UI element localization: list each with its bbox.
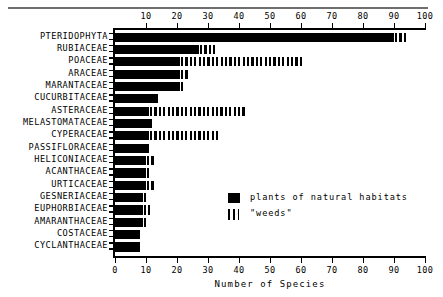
bar-row (115, 94, 425, 103)
tick-bottom-90 (394, 258, 395, 263)
tick-left-1-1 (109, 51, 114, 52)
tick-left-13-1 (109, 199, 114, 200)
tick-left-0-1 (109, 39, 114, 40)
tick-left-5-1 (109, 100, 114, 101)
tick-label-bottom-80: 80 (358, 265, 369, 275)
bar-segment-natural (115, 218, 143, 227)
bar-segment-weeds (147, 181, 156, 190)
category-label: HELICONIACEAE (34, 155, 108, 164)
bar-row (115, 218, 425, 227)
bar-segment-natural (115, 242, 140, 251)
tick-left-15-1 (109, 224, 114, 225)
tick-left-2-0 (109, 57, 114, 58)
tick-left-12-1 (109, 187, 114, 188)
category-label: ACANTHACEAE (46, 167, 108, 176)
category-label: CYPERACEAE (51, 130, 108, 139)
tick-top-70 (332, 23, 333, 28)
tick-left-10-0 (109, 156, 114, 157)
figure: PTERIDOPHYTARUBIACEAEPOACEAEARACEAEMARAN… (0, 0, 443, 297)
tick-left-12-0 (109, 181, 114, 182)
tick-label-bottom-40: 40 (234, 265, 245, 275)
tick-left-16-1 (109, 236, 114, 237)
tick-bottom-60 (301, 258, 302, 263)
bar-row (115, 242, 425, 251)
category-label: ARACEAE (68, 69, 108, 78)
bar-segment-weeds (144, 218, 147, 227)
tick-top-50 (270, 23, 271, 28)
bar-row (115, 45, 425, 54)
bar-segment-weeds (147, 156, 156, 165)
bar-segment-weeds (144, 205, 150, 214)
tick-bottom-20 (177, 258, 178, 263)
tick-label-bottom-70: 70 (327, 265, 338, 275)
tick-left-8-0 (109, 131, 114, 132)
tick-label-bottom-30: 30 (203, 265, 214, 275)
bar-segment-natural (115, 156, 146, 165)
tick-left-3-1 (109, 76, 114, 77)
tick-top-80 (363, 23, 364, 28)
legend-swatch-hatched-icon (228, 209, 239, 220)
category-label: URTICACEAE (51, 180, 108, 189)
tick-left-17-1 (109, 248, 114, 249)
bar-row (115, 57, 425, 66)
bar-segment-natural (115, 33, 394, 42)
bar-row (115, 131, 425, 140)
category-label: PASSIFLORACEAE (29, 143, 108, 152)
tick-label-top-30: 30 (203, 11, 214, 21)
category-axis-labels: PTERIDOPHYTARUBIACEAEPOACEAEARACEAEMARAN… (0, 31, 110, 255)
tick-left-2-1 (109, 63, 114, 64)
tick-label-top-40: 40 (234, 11, 245, 21)
tick-top-40 (239, 23, 240, 28)
tick-label-bottom-50: 50 (265, 265, 276, 275)
tick-label-bottom-100: 100 (417, 265, 433, 275)
tick-label-top-60: 60 (296, 11, 307, 21)
category-label: AMARANTHACEAE (34, 217, 108, 226)
tick-left-8-1 (109, 137, 114, 138)
bar-segment-weeds (200, 45, 216, 54)
tick-bottom-0 (115, 258, 116, 263)
tick-label-bottom-20: 20 (172, 265, 183, 275)
tick-label-top-70: 70 (327, 11, 338, 21)
tick-label-bottom-90: 90 (389, 265, 400, 275)
tick-left-11-0 (109, 168, 114, 169)
category-label: EUPHORBIACEAE (34, 204, 108, 213)
tick-bottom-40 (239, 258, 240, 263)
category-label: POACEAE (68, 56, 108, 65)
bar-segment-weeds (144, 193, 147, 202)
tick-bottom-70 (332, 258, 333, 263)
bar-row (115, 181, 425, 190)
bar-segment-natural (115, 230, 140, 239)
bar-row (115, 230, 425, 239)
tick-label-bottom-0: 0 (112, 265, 117, 275)
tick-label-bottom-60: 60 (296, 265, 307, 275)
tick-left-0-0 (109, 33, 114, 34)
tick-left-4-0 (109, 82, 114, 83)
tick-left-11-1 (109, 174, 114, 175)
tick-left-9-0 (109, 144, 114, 145)
bar-segment-natural (115, 168, 146, 177)
bar-segment-natural (115, 70, 180, 79)
legend-label-weeds: "weeds" (250, 208, 293, 218)
category-label: COSTACEAE (57, 229, 108, 238)
tick-top-30 (208, 23, 209, 28)
bar-row (115, 33, 425, 42)
category-label: CYCLANTHACEAE (34, 241, 108, 250)
bar-segment-natural (115, 57, 180, 66)
bar-segment-natural (115, 144, 149, 153)
tick-top-20 (177, 23, 178, 28)
bar-segment-natural (115, 119, 152, 128)
tick-left-6-0 (109, 107, 114, 108)
bar-segment-weeds (395, 33, 407, 42)
bar-segment-natural (115, 107, 149, 116)
category-label: CUCURBITACEAE (34, 93, 108, 102)
tick-left-5-0 (109, 94, 114, 95)
tick-top-90 (394, 23, 395, 28)
tick-left-4-1 (109, 88, 114, 89)
bar-segment-weeds (150, 107, 246, 116)
bar-segment-weeds (181, 70, 190, 79)
tick-bottom-80 (363, 258, 364, 263)
tick-left-1-0 (109, 45, 114, 46)
tick-bottom-30 (208, 258, 209, 263)
tick-label-bottom-10: 10 (141, 265, 152, 275)
category-label: ASTERACEAE (51, 106, 108, 115)
